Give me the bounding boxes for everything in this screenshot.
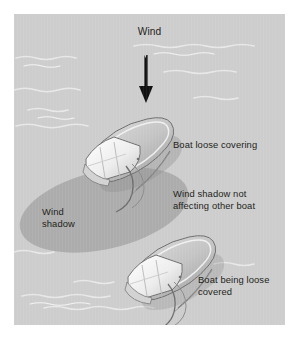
wind-shadow-not-affecting-label: Wind shadow not affecting other boat — [173, 188, 255, 211]
down-arrow-icon — [139, 55, 153, 103]
wind-shadow-label: Wind shadow — [42, 206, 75, 231]
wind-label: Wind — [0, 26, 299, 38]
wind-shadow-figure: Wind Boat loose covering Wind shadow not… — [0, 0, 299, 343]
boat-loose-covering-label: Boat loose covering — [173, 139, 257, 151]
boat-being-loose-covered-label: Boat being loose covered — [198, 274, 269, 297]
